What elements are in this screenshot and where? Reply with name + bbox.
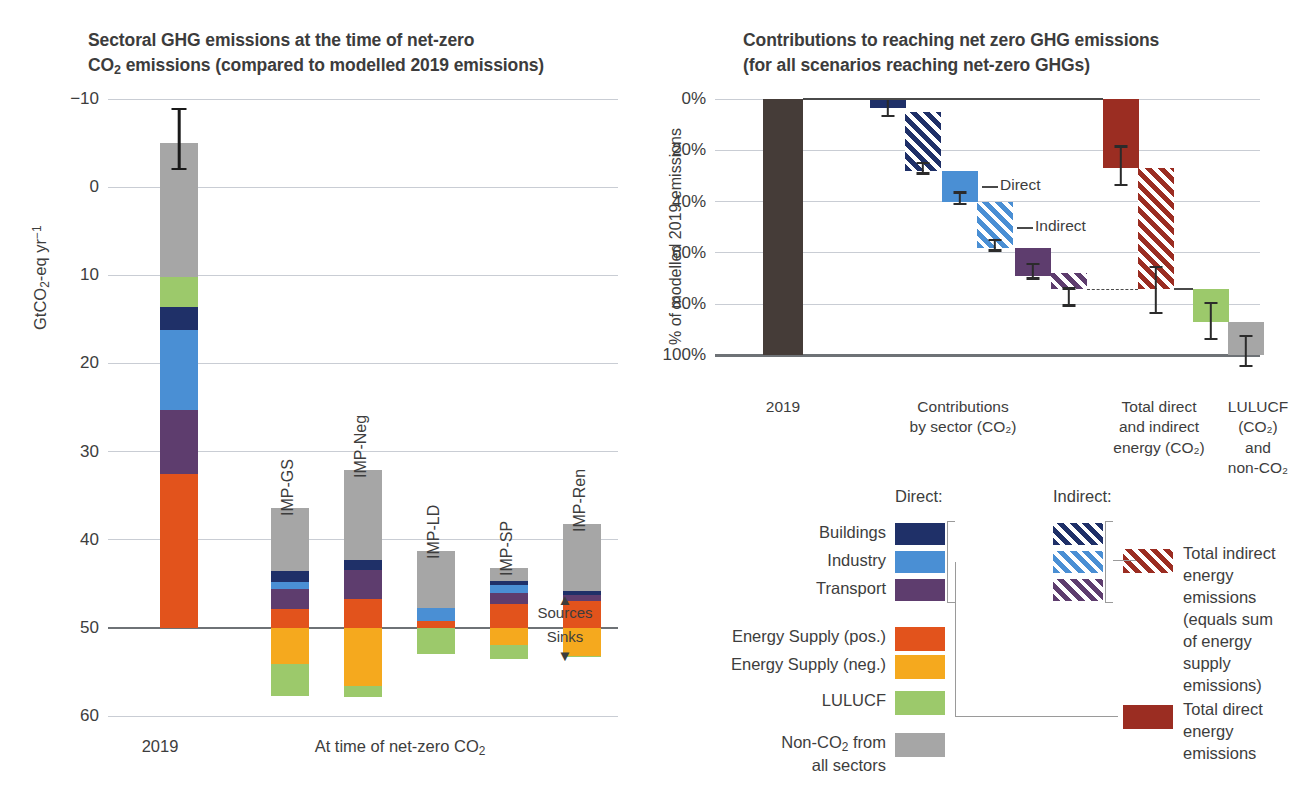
sinks-arrow-icon: ▼: [530, 647, 600, 664]
panel-f-xcat-0: 2019: [766, 397, 800, 417]
panel-e-segment: [344, 570, 382, 599]
panel-f-error-cap-top: [1063, 287, 1076, 289]
legend-total-direct-line: energy emissions: [1183, 722, 1256, 762]
panel-f-error-bar: [1120, 145, 1122, 186]
panel-f-error-bar: [1210, 302, 1212, 340]
panel-f-annotation-direct: Direct: [1000, 176, 1040, 194]
panel-e-segment: [271, 609, 309, 628]
panel-f-xcat-line: and indirect: [1119, 418, 1199, 435]
panel-e-title: Sectoral GHG emissions at the time of ne…: [88, 28, 648, 79]
legend-total-indirect-line: energy emissions: [1183, 566, 1256, 606]
panel-f-error-cap-top: [1240, 335, 1253, 337]
panel-f-error-cap-bottom: [1150, 312, 1163, 314]
panel-e-title-sub: 2: [114, 63, 121, 77]
legend-swatch-industry-indirect: [1053, 551, 1103, 573]
panel-e-title-line2-post: emissions (compared to modelled 2019 emi…: [121, 55, 544, 75]
legend-swatch-nonco2: [895, 733, 945, 757]
panel-f-connector-top: [803, 98, 1103, 100]
panel-e-segment: [490, 593, 528, 604]
panel-e-bar-imp-ld: [417, 99, 455, 716]
panel-e-bar-label-IMP-GS: IMP-GS: [279, 459, 297, 516]
panel-e-xcat-2019: 2019: [142, 737, 179, 756]
legend-label-total-direct: Total directenergy emissions: [1183, 699, 1293, 765]
panel-e-segment: [344, 628, 382, 686]
panel-f-ytick-80: 20%: [672, 140, 706, 160]
panel-e-segment: [417, 621, 455, 628]
legend-label-industry: Industry: [700, 550, 886, 571]
panel-f-error-cap-top: [1205, 302, 1218, 304]
panel-e-bar-label-IMP-SP: IMP-SP: [498, 521, 516, 576]
panel-e-segment: [417, 608, 455, 621]
panel-e-segment: [160, 474, 198, 628]
panel-f-xcat-line: and non-CO₂: [1228, 439, 1288, 476]
panel-f-error-cap-bottom: [1063, 304, 1076, 306]
panel-e-ytick-10: 40: [80, 529, 99, 549]
panel-e-ytick-0: 50: [80, 617, 99, 637]
panel-f-connector-dashed: [1087, 289, 1138, 290]
panel-e-y-axis-label: GtCO2-eq yr−1: [30, 225, 52, 330]
legend-leader-direct-horiz: [955, 716, 1118, 717]
panel-f-xcat-line: 2019: [766, 398, 800, 415]
panel-e-segment: [344, 560, 382, 570]
panel-e-ytick-40: 10: [80, 265, 99, 285]
panel-e-bar-2019: [160, 99, 198, 716]
sinks-label: Sinks: [530, 628, 600, 645]
panel-e-title-line1: Sectoral GHG emissions at the time of ne…: [88, 30, 474, 50]
legend-swatch-lulucf: [895, 691, 945, 715]
legend-label-total-indirect: Total indirectenergy emissions(equals su…: [1183, 543, 1293, 697]
panel-f-annotation-indirect-leader: [1017, 227, 1033, 229]
y-label-pre: GtCO: [31, 288, 49, 330]
panel-e-bar-label-IMP-LD: IMP-LD: [425, 505, 443, 559]
panel-f-error-cap-bottom: [882, 115, 895, 117]
legend-total-indirect-line: (equals sum: [1183, 610, 1273, 628]
panel-f-ytick-20: 80%: [672, 294, 706, 314]
panel-f-xcat-line: LULUCF (CO₂): [1228, 398, 1288, 435]
panel-f-error-cap-bottom: [917, 172, 930, 174]
legend-swatch-energy-supply-pos-: [895, 627, 945, 651]
panel-f-ytick-100: 0%: [681, 89, 706, 109]
panel-e-segment: [490, 581, 528, 585]
panel-e-segment: [271, 582, 309, 589]
panel-e-xcat-netzero: At time of net-zero CO2: [315, 737, 486, 758]
legend-nonco2-line2: all sectors: [812, 756, 886, 774]
legend-swatch-total-direct: [1123, 705, 1173, 729]
legend-label-buildings: Buildings: [700, 522, 886, 543]
panel-f-xcat-1: Contributionsby sector (CO₂): [910, 397, 1017, 438]
legend-nonco2-pre: Non-CO: [781, 733, 842, 751]
panel-e-segment: [563, 524, 601, 591]
panel-e-segment: [417, 628, 455, 654]
panel-e-ytick-60: −10: [70, 89, 99, 109]
xcat-netzero-pre: At time of net-zero CO: [315, 737, 479, 755]
panel-e-bar-label-IMP-Ren: IMP-Ren: [571, 469, 589, 532]
legend-label-transport: Transport: [700, 578, 886, 599]
panel-f-xcat-3: LULUCF (CO₂)and non-CO₂: [1228, 397, 1288, 479]
panel-f-xcat-line: Total direct: [1122, 398, 1197, 415]
panel-f-error-cap-bottom: [1240, 365, 1253, 367]
xcat-netzero-sub: 2: [479, 744, 486, 758]
panel-f-error-cap-bottom: [1115, 184, 1128, 186]
legend-label-energy-supply-pos-: Energy Supply (pos.): [640, 626, 886, 647]
panel-e-error-cap-top: [172, 108, 187, 111]
panel-e-segment: [271, 508, 309, 571]
panel-f-ytick-40: 60%: [672, 242, 706, 262]
legend-bracket-indirect: [1105, 521, 1113, 603]
legend-label-energy-supply-neg-: Energy Supply (neg.): [640, 654, 886, 675]
panel-f-error-cap-top: [1027, 263, 1040, 265]
panel-f-annotation-direct-leader: [982, 186, 998, 188]
panel-e-bar-imp-gs: [271, 99, 309, 716]
panel-f-title-line2: (for all scenarios reaching net-zero GHG…: [743, 55, 1090, 75]
panel-e-ytick-20: 30: [80, 441, 99, 461]
legend-bracket-direct: [947, 521, 955, 603]
panel-e-title-line2-pre: CO: [88, 55, 114, 75]
panel-e-segment: [490, 645, 528, 658]
y-label-sup: −1: [30, 225, 44, 239]
panel-e-segment: [490, 585, 528, 593]
panel-e-bar-imp-neg: [344, 99, 382, 716]
panel-e-segment: [271, 571, 309, 582]
legend-leader-indirect-to-total: [1113, 560, 1136, 561]
panel-e-error-bar-2019: [178, 108, 181, 171]
panel-f-error-cap-top: [1115, 145, 1128, 147]
legend-header-direct: Direct:: [895, 487, 943, 506]
panel-f-error-cap-bottom: [989, 249, 1002, 251]
panel-f-error-cap-top: [1150, 266, 1163, 268]
